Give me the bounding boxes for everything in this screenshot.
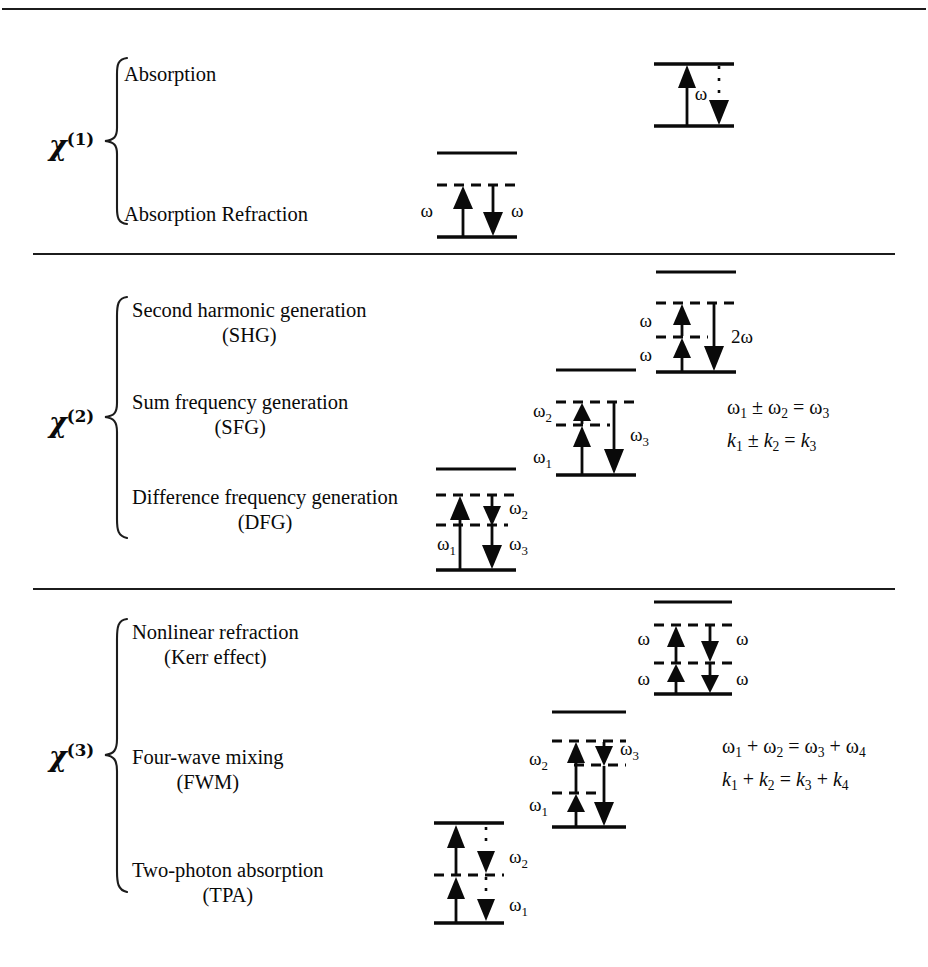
svg-text:ω: ω (639, 344, 652, 365)
svg-text:ω2: ω2 (533, 400, 552, 425)
chi-3-symbol: χ(3) (49, 742, 94, 770)
process-absorption: Absorption (124, 62, 216, 87)
divider-rule-chi2-chi3 (33, 588, 895, 590)
chi-2-symbol: χ(2) (49, 408, 94, 436)
svg-text:ω3: ω3 (620, 738, 639, 763)
svg-text:ω: ω (736, 628, 749, 649)
process-kerr: Nonlinear refraction (Kerr effect) (132, 620, 299, 670)
tpa-diagram: ω2 ω1 (406, 815, 551, 930)
process-sfg: Sum frequency generation (SFG) (132, 390, 348, 440)
process-fwm: Four-wave mixing (FWM) (132, 745, 284, 795)
chi-2-brace (101, 295, 131, 540)
svg-text:ω2: ω2 (509, 846, 528, 871)
equation-omega-chi2: ω1 ± ω2 = ω3 (727, 394, 829, 427)
absorption-diagram: ω (648, 55, 748, 140)
svg-text:ω: ω (420, 200, 433, 221)
svg-text:ω1: ω1 (437, 533, 456, 558)
chi-2-equations: ω1 ± ω2 = ω3 k1 ± k2 = k3 (727, 394, 829, 460)
svg-text:ω3: ω3 (509, 533, 528, 558)
dfg-diagram: ω1 ω2 ω3 (408, 462, 553, 577)
svg-text:ω2: ω2 (509, 497, 528, 522)
svg-text:2ω: 2ω (731, 326, 753, 347)
svg-text:ω2: ω2 (529, 748, 548, 773)
divider-rule-chi1-chi2 (33, 253, 895, 255)
process-refraction: Absorption Refraction (124, 202, 308, 227)
svg-text:ω: ω (511, 200, 524, 221)
refraction-diagram: ω ω (425, 145, 530, 245)
svg-text:ω1: ω1 (509, 894, 528, 919)
svg-text:ω: ω (639, 310, 652, 331)
process-shg: Second harmonic generation (SHG) (132, 298, 367, 348)
svg-text:ω: ω (637, 628, 650, 649)
svg-text:ω: ω (736, 668, 749, 689)
equation-k-chi3: k1 + k2 = k3 + k4 (722, 766, 866, 799)
equation-omega-chi3: ω1 + ω2 = ω3 + ω4 (722, 733, 866, 766)
chi-1-symbol: χ(1) (49, 131, 94, 159)
kerr-diagram: ω ω ω ω (612, 595, 762, 700)
svg-text:ω3: ω3 (630, 424, 649, 449)
top-border-rule (2, 8, 926, 10)
equation-k-chi2: k1 ± k2 = k3 (727, 427, 829, 460)
process-tpa: Two-photon absorption (TPA) (132, 858, 324, 908)
figure-page: χ(1) Absorption Absorption Refraction ω (0, 0, 928, 967)
svg-text:ω: ω (695, 83, 708, 104)
process-dfg: Difference frequency generation (DFG) (132, 485, 398, 535)
svg-text:ω: ω (637, 668, 650, 689)
chi-3-brace (101, 617, 131, 894)
chi-3-equations: ω1 + ω2 = ω3 + ω4 k1 + k2 = k3 + k4 (722, 733, 866, 799)
